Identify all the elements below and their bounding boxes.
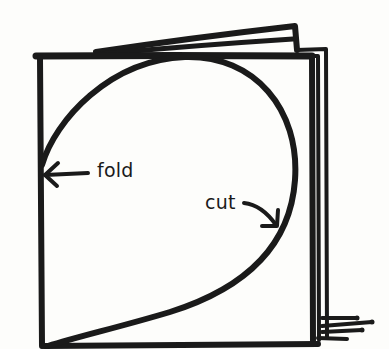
fold-arrow-icon [45, 163, 88, 186]
diagram-canvas: fold cut [0, 0, 389, 349]
cut-arrow-icon [244, 203, 278, 226]
cut-label: cut [205, 193, 236, 212]
cut-line [42, 57, 295, 346]
fold-label: fold [97, 161, 133, 180]
booklet-drawing [0, 0, 389, 349]
